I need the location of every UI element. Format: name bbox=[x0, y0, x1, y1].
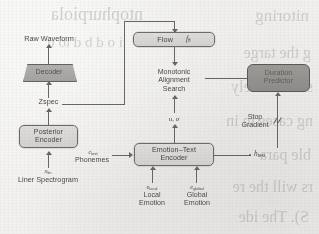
emotion-text-encoder-box[interactable]: Emotion–Text Encoder bbox=[134, 143, 214, 166]
linear-spectrogram-label: Liner Spectrogram bbox=[4, 176, 92, 185]
edge-zspec-to-flow-h bbox=[62, 104, 125, 105]
stop-gradient-label: Stop Gradient bbox=[236, 113, 274, 130]
mu-sigma-symbols: u, σ bbox=[169, 115, 179, 122]
edge-encoder-to-htext bbox=[214, 155, 251, 156]
symbol-h-subscript: text bbox=[258, 153, 265, 158]
duration-predictor-label-line2: Predictor bbox=[264, 78, 293, 86]
duration-predictor-box[interactable]: Duration Predictor bbox=[247, 64, 310, 92]
arrowhead-up bbox=[46, 151, 52, 155]
arrowhead-up bbox=[46, 81, 52, 85]
phonemes-label: Phonemes bbox=[70, 156, 114, 164]
edge-endpoint-dot bbox=[249, 154, 251, 156]
mas-line1: Monotonic bbox=[158, 68, 191, 76]
edge-local-emotion-to-encoder bbox=[152, 169, 153, 183]
flow-box[interactable]: Flow fθ bbox=[133, 32, 215, 47]
flow-label: Flow bbox=[157, 36, 173, 44]
edge-zspec-to-decoder bbox=[48, 84, 49, 98]
zspec-label: Zspec bbox=[26, 98, 71, 107]
posterior-encoder-box[interactable]: Posterior Encoder bbox=[19, 125, 78, 148]
mas-line2: Alignment bbox=[158, 76, 190, 84]
arrowhead-up bbox=[46, 108, 52, 112]
edge-global-emotion-to-encoder bbox=[196, 169, 197, 183]
arrowhead-up bbox=[150, 166, 156, 170]
local-emotion-line1: Local bbox=[144, 191, 161, 199]
symbol-e-global-subscript: global bbox=[193, 186, 204, 191]
edge-flowbus-top bbox=[124, 21, 175, 22]
decoder-label: Decoder bbox=[23, 64, 75, 80]
edge-spectrogram-to-posterior bbox=[48, 154, 49, 168]
mas-line3: Search bbox=[163, 85, 185, 93]
global-emotion-line1: Global bbox=[187, 191, 208, 199]
symbol-f-subscript: θ bbox=[188, 38, 191, 43]
arrowhead-up bbox=[194, 166, 200, 170]
edge-posterior-to-zspec bbox=[48, 111, 49, 125]
stop-gradient-line2: Gradient bbox=[241, 121, 268, 129]
local-emotion-label: Local Emotion bbox=[131, 191, 173, 208]
symbol-e-local-subscript: local bbox=[149, 186, 157, 191]
arrowhead-down bbox=[172, 62, 178, 66]
arrowhead-right bbox=[129, 152, 133, 158]
monotonic-alignment-search-label: Monotonic Alignment Search bbox=[145, 68, 203, 93]
figure-canvas: nitoring g the targe s. Eff ctively ng c… bbox=[0, 0, 319, 234]
h-text-label: htext bbox=[254, 150, 288, 159]
symbol-x-subscript: lin bbox=[47, 170, 51, 175]
arrowhead-up bbox=[172, 95, 178, 99]
local-emotion-line2: Emotion bbox=[139, 199, 165, 207]
arrowhead-up bbox=[172, 124, 178, 128]
arrowhead-up bbox=[46, 44, 52, 48]
edge-encoder-to-musigma bbox=[174, 127, 175, 143]
mu-sigma-label: u, σ bbox=[154, 115, 194, 123]
raw-waveform-label: Raw Waveform bbox=[9, 35, 89, 44]
edge-musigma-to-mas bbox=[174, 98, 175, 113]
flow-function-symbol: fθ bbox=[186, 35, 191, 44]
emotion-text-encoder-label-line2: Encoder bbox=[160, 155, 187, 163]
arrowhead-up bbox=[275, 92, 281, 96]
edge-zspec-to-flow-v bbox=[124, 21, 125, 105]
symbol-c-subscript: text bbox=[91, 151, 97, 156]
stop-gradient-line1: Stop bbox=[248, 113, 263, 121]
global-emotion-line2: Emotion bbox=[184, 199, 210, 207]
global-emotion-label: Global Emotion bbox=[175, 191, 219, 208]
edge-mas-to-duration-predictor bbox=[205, 78, 247, 79]
posterior-encoder-label-line2: Encoder bbox=[35, 137, 62, 145]
diagram-layer: Raw Waveform Decoder Zspec Posterior Enc… bbox=[0, 0, 319, 234]
edge-decoder-to-raw-waveform bbox=[48, 47, 49, 64]
